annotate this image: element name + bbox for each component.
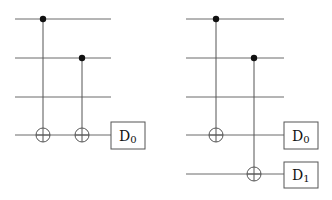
cnot-gate-2 xyxy=(75,55,89,142)
cnot-gate-2 xyxy=(247,55,261,181)
quantum-circuit-diagram: D0 D0 D1 xyxy=(0,0,332,200)
detector-d1-right: D1 xyxy=(284,162,318,188)
cnot-gate-1 xyxy=(36,16,50,142)
detector-d0-right: D0 xyxy=(284,122,318,149)
control-dot-icon xyxy=(40,16,46,22)
control-dot-icon xyxy=(79,55,85,61)
left-circuit: D0 xyxy=(15,16,145,149)
control-dot-icon xyxy=(251,55,257,61)
detector-d0-left: D0 xyxy=(111,122,145,149)
cnot-gate-1 xyxy=(209,16,223,142)
right-circuit: D0 D1 xyxy=(186,16,318,188)
control-dot-icon xyxy=(213,16,219,22)
